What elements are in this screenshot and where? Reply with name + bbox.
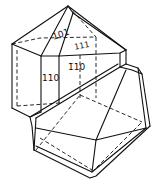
label-101: 101 xyxy=(51,27,70,42)
label-110-left: 110 xyxy=(42,73,59,83)
label-111: 111 xyxy=(74,40,91,52)
crystal-diagram: 101 111 110 1̄10 xyxy=(0,0,158,186)
label-110-right: 1̄10 xyxy=(68,62,85,72)
